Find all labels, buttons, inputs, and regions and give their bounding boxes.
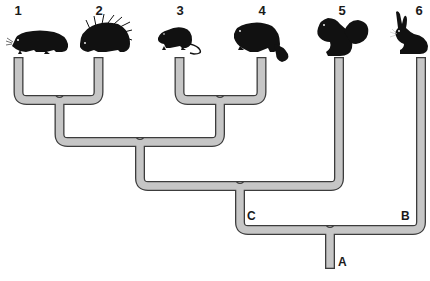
porcupine-icon — [76, 14, 132, 56]
branch-clade-c — [140, 57, 339, 186]
mole-icon — [6, 26, 72, 56]
branch-clade-b — [240, 57, 421, 230]
taxon-label-3: 3 — [176, 4, 183, 17]
node-label-b: B — [401, 210, 410, 222]
cladogram: 1 2 3 4 5 6 — [0, 0, 430, 281]
branch-12-stem — [60, 100, 221, 142]
taxon-label-1: 1 — [14, 4, 21, 17]
branch-3-4 — [180, 57, 262, 100]
node-label-a: A — [338, 256, 347, 268]
taxon-label-4: 4 — [258, 4, 265, 17]
squirrel-icon — [314, 14, 370, 58]
node-label-c: C — [247, 210, 256, 222]
rabbit-icon — [388, 10, 430, 56]
branch-1-2 — [19, 57, 99, 100]
rat-icon — [156, 24, 208, 56]
beaver-icon — [232, 18, 292, 62]
